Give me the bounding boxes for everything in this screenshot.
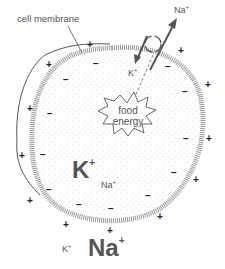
outside-k-label: K+	[62, 243, 72, 254]
svg-text:−: −	[183, 133, 189, 144]
svg-text:+: +	[193, 174, 199, 185]
svg-text:−: −	[182, 86, 188, 97]
svg-text:−: −	[46, 184, 52, 195]
svg-text:+: +	[27, 103, 33, 114]
energy-label-food: food	[118, 105, 137, 116]
na-arrowhead-icon	[168, 18, 177, 29]
svg-text:−: −	[40, 149, 46, 160]
svg-text:+: +	[157, 211, 163, 222]
svg-text:+: +	[205, 79, 211, 90]
svg-text:−: −	[171, 167, 177, 178]
svg-text:−: −	[63, 74, 69, 85]
svg-text:+: +	[178, 45, 184, 56]
svg-text:−: −	[47, 108, 53, 119]
svg-text:−: −	[108, 203, 114, 214]
svg-text:+: +	[87, 39, 93, 50]
svg-text:+: +	[27, 195, 33, 206]
svg-text:+: +	[46, 59, 52, 70]
svg-text:+: +	[206, 133, 212, 144]
svg-text:+: +	[107, 225, 113, 236]
label-leader-line	[68, 26, 82, 53]
svg-text:−: −	[76, 199, 82, 210]
svg-text:−: −	[165, 61, 171, 72]
cell-diagram: food energy cell membrane Na+ K+ K+ Na+ …	[0, 0, 225, 269]
cell-membrane-label: cell membrane	[17, 13, 79, 24]
svg-text:−: −	[145, 190, 151, 201]
svg-text:−: −	[93, 58, 99, 69]
pump-na-label: Na+	[174, 4, 190, 15]
svg-text:+: +	[63, 219, 69, 230]
outside-na-label: Na+	[88, 234, 125, 261]
energy-label-energy: energy	[113, 116, 144, 127]
svg-text:+: +	[19, 150, 25, 161]
diagram-canvas: food energy cell membrane Na+ K+ K+ Na+ …	[0, 0, 225, 269]
